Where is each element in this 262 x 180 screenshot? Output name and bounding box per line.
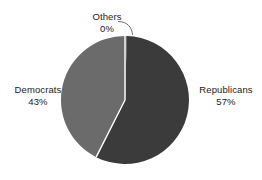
slice-label-democrats-name: Democrats <box>5 84 71 96</box>
slice-label-republicans-name: Republicans <box>192 84 260 96</box>
slice-label-others: Others 0% <box>80 11 134 34</box>
pie-chart: Others 0% Democrats 43% Republicans 57% <box>0 0 262 180</box>
slice-label-others-percent: 0% <box>80 23 134 35</box>
slice-label-others-name: Others <box>80 11 134 23</box>
slice-label-democrats-percent: 43% <box>5 96 71 108</box>
slice-label-republicans: Republicans 57% <box>192 84 260 107</box>
slice-label-republicans-percent: 57% <box>192 96 260 108</box>
slice-label-democrats: Democrats 43% <box>5 84 71 107</box>
